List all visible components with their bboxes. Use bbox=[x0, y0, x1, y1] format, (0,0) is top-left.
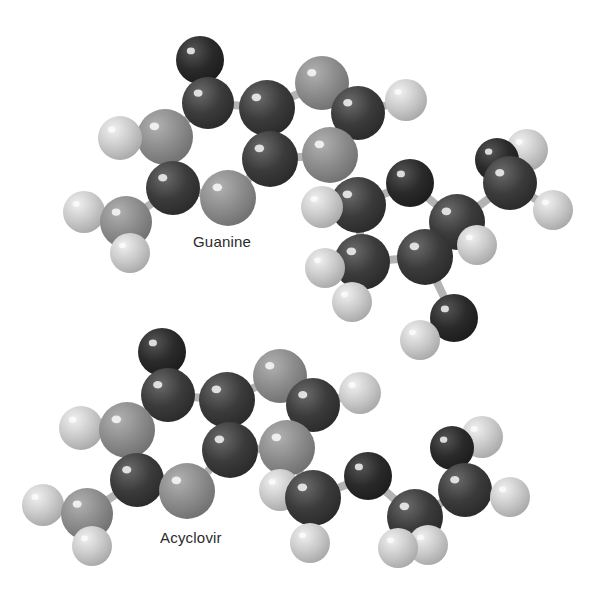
oxygen-atom bbox=[344, 452, 392, 500]
hydrogen-atom bbox=[301, 186, 343, 228]
atom-highlight bbox=[72, 201, 79, 207]
atom-highlight bbox=[252, 93, 262, 101]
atom-highlight bbox=[397, 171, 405, 178]
carbon-atom bbox=[397, 229, 453, 285]
atom-highlight bbox=[470, 426, 477, 432]
atom-highlight bbox=[158, 174, 167, 182]
atom-highlight bbox=[112, 415, 122, 423]
acyclovir-label: Acyclovir bbox=[160, 529, 222, 546]
carbon-atom bbox=[438, 463, 492, 517]
nitrogen-atom bbox=[259, 420, 315, 476]
hydrogen-atom bbox=[22, 484, 64, 526]
hydrogen-atom bbox=[385, 79, 427, 121]
ball-and-stick-models bbox=[0, 0, 600, 594]
nitrogen-atom bbox=[137, 109, 193, 165]
atom-highlight bbox=[307, 69, 316, 77]
atom-highlight bbox=[153, 381, 162, 389]
carbon-atom bbox=[242, 131, 298, 187]
atom-highlight bbox=[265, 362, 274, 370]
atom-highlight bbox=[172, 476, 182, 484]
atom-highlight bbox=[466, 235, 473, 241]
atom-highlight bbox=[499, 487, 506, 493]
nitrogen-atom bbox=[200, 170, 256, 226]
hydrogen-atom bbox=[339, 372, 381, 414]
atom-highlight bbox=[187, 48, 195, 55]
nitrogen-atom bbox=[99, 402, 155, 458]
atom-highlight bbox=[310, 196, 317, 202]
carbon-atom bbox=[483, 156, 537, 210]
atom-highlight bbox=[212, 385, 222, 393]
atom-highlight bbox=[347, 247, 357, 255]
hydrogen-atom bbox=[332, 282, 372, 322]
carbon-atom bbox=[110, 453, 164, 507]
guanine-label: Guanine bbox=[193, 233, 251, 250]
hydrogen-atom bbox=[63, 191, 105, 233]
hydrogen-atom bbox=[290, 523, 330, 563]
atom-highlight bbox=[215, 435, 225, 443]
atom-highlight bbox=[31, 494, 38, 500]
nitrogen-atom bbox=[159, 463, 215, 519]
atom-highlight bbox=[272, 433, 282, 441]
atom-highlight bbox=[515, 139, 522, 145]
oxygen-atom bbox=[176, 36, 224, 84]
molecule-layer bbox=[22, 36, 573, 568]
atom-highlight bbox=[409, 330, 416, 336]
atom-highlight bbox=[485, 149, 492, 155]
atom-highlight bbox=[441, 306, 449, 313]
atom-highlight bbox=[355, 464, 363, 471]
atom-highlight bbox=[341, 292, 348, 298]
molecule-acyclovir bbox=[22, 328, 530, 568]
nitrogen-atom bbox=[302, 127, 358, 183]
carbon-atom bbox=[285, 470, 341, 526]
atom-highlight bbox=[150, 122, 160, 130]
hydrogen-atom bbox=[533, 190, 573, 230]
atom-highlight bbox=[442, 207, 452, 215]
atom-highlight bbox=[417, 535, 424, 541]
atom-highlight bbox=[343, 190, 353, 198]
hydrogen-atom bbox=[400, 320, 440, 360]
atom-highlight bbox=[298, 391, 307, 399]
atom-highlight bbox=[81, 536, 88, 542]
atom-highlight bbox=[394, 89, 401, 95]
hydrogen-atom bbox=[98, 116, 142, 160]
atom-highlight bbox=[387, 538, 394, 544]
atom-highlight bbox=[343, 99, 352, 107]
atom-highlight bbox=[194, 89, 203, 96]
atom-highlight bbox=[112, 208, 121, 215]
atom-highlight bbox=[268, 479, 275, 485]
atom-highlight bbox=[69, 417, 76, 423]
hydrogen-atom bbox=[59, 406, 103, 450]
hydrogen-atom bbox=[378, 528, 418, 568]
atom-highlight bbox=[542, 200, 549, 206]
hydrogen-atom bbox=[457, 225, 497, 265]
carbon-atom bbox=[182, 77, 234, 129]
atom-highlight bbox=[108, 127, 115, 133]
hydrogen-atom bbox=[490, 477, 530, 517]
atom-highlight bbox=[119, 243, 126, 249]
carbon-atom bbox=[146, 161, 200, 215]
atom-highlight bbox=[410, 242, 420, 250]
atom-highlight bbox=[298, 483, 308, 491]
atom-highlight bbox=[450, 476, 459, 484]
atom-highlight bbox=[213, 183, 223, 191]
atom-highlight bbox=[122, 466, 131, 474]
atom-highlight bbox=[315, 140, 325, 148]
molecular-models-figure: Guanine Acyclovir bbox=[0, 0, 600, 594]
oxygen-atom bbox=[386, 159, 434, 207]
atom-highlight bbox=[314, 258, 321, 264]
hydrogen-atom bbox=[72, 526, 112, 566]
atom-highlight bbox=[149, 340, 157, 347]
atom-highlight bbox=[440, 437, 447, 443]
carbon-atom bbox=[239, 80, 295, 136]
atom-highlight bbox=[73, 500, 82, 507]
carbon-atom bbox=[199, 372, 255, 428]
hydrogen-atom bbox=[305, 248, 345, 288]
atom-highlight bbox=[255, 144, 265, 152]
atom-highlight bbox=[495, 169, 504, 177]
atom-highlight bbox=[400, 502, 410, 510]
atom-highlight bbox=[299, 533, 306, 539]
carbon-atom bbox=[202, 422, 258, 478]
atom-highlight bbox=[348, 382, 355, 388]
hydrogen-atom bbox=[110, 233, 150, 273]
